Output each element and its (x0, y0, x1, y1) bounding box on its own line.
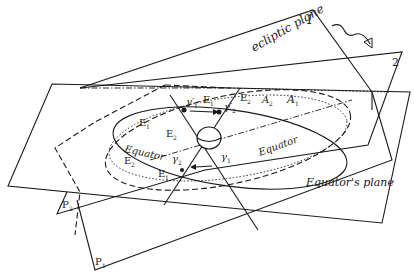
svg-text:1: 1 (102, 262, 106, 269)
svg-text:P: P (62, 199, 69, 210)
plane-1-label: 1 (306, 13, 314, 27)
svg-text:2: 2 (247, 98, 251, 105)
equator-label-right: Equator (256, 133, 300, 158)
svg-text:2: 2 (69, 205, 73, 212)
precession-arrow-bottom (196, 166, 212, 167)
arrowhead-icon (190, 164, 196, 170)
label-gamma2-top: γ′ 2 (224, 101, 236, 114)
node-point-gamma2-bottom (180, 168, 184, 172)
svg-text:1: 1 (146, 123, 150, 130)
plane-2-label: 2 (392, 56, 399, 69)
precession-arrow (190, 111, 213, 112)
label-E1-top: E 1 (203, 94, 214, 107)
svg-text:1: 1 (227, 157, 231, 164)
node-point-gamma1-top (182, 108, 187, 113)
svg-text:1: 1 (194, 102, 198, 109)
label-P1: P 1 (95, 256, 106, 269)
svg-text:2: 2 (131, 161, 135, 168)
svg-text:A: A (286, 93, 295, 106)
label-gamma1-bottom: γ 1 (221, 151, 231, 164)
label-E1-left: E 1 (139, 117, 150, 130)
svg-text:2: 2 (173, 134, 177, 141)
svg-text:1: 1 (210, 100, 214, 107)
precession-diagram: ecliptic plane 1 2 Equator's plane Equat… (0, 0, 414, 279)
node-line-1 (170, 95, 258, 230)
svg-text:P: P (95, 256, 102, 267)
label-E2-top: E 2 (240, 92, 251, 105)
dashed-plane-edge (55, 85, 165, 235)
svg-text:2: 2 (178, 159, 182, 166)
equators-plane-label: Equator's plane (305, 176, 394, 189)
label-E1-bottom: E 1 (158, 168, 169, 181)
svg-text:2: 2 (232, 107, 236, 114)
svg-text:1: 1 (165, 174, 169, 181)
label-A2: A 2 (261, 94, 273, 107)
label-gamma2-bottom: γ 2 (172, 153, 182, 166)
svg-text:2: 2 (269, 100, 273, 107)
label-A1: A 1 (286, 93, 299, 107)
label-P2: P 2 (62, 199, 73, 212)
earth-globe-icon (197, 127, 221, 149)
svg-text:A: A (261, 94, 269, 105)
ecliptic-plane-2 (57, 52, 402, 214)
svg-text:1: 1 (295, 100, 299, 107)
ecliptic-plane-1-top (80, 10, 372, 92)
label-E2-center: E 2 (166, 128, 177, 141)
